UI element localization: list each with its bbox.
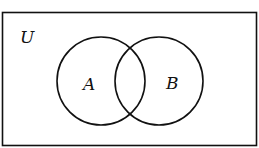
venn-diagram: U A B xyxy=(0,0,259,148)
universe-rectangle xyxy=(3,13,257,146)
set-a-label: A xyxy=(81,74,95,94)
set-a-circle xyxy=(57,37,145,125)
set-b-label: B xyxy=(165,73,179,93)
set-b-circle xyxy=(115,37,203,125)
universe-label: U xyxy=(20,27,35,47)
